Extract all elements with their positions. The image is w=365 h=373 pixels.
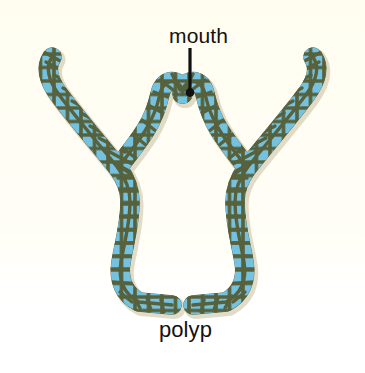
mouth-pointer-dot — [186, 88, 195, 97]
mouth-label: mouth — [0, 25, 365, 47]
polyp-label: polyp — [0, 318, 365, 342]
polyp-diagram-figure: mouth polyp — [0, 0, 365, 373]
